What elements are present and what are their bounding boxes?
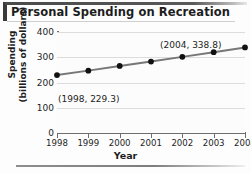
x-tick-label: 2001	[140, 138, 162, 148]
data-point-marker	[179, 54, 185, 60]
y-axis-title-line1: Spending	[7, 31, 17, 79]
x-tick-label: 1999	[77, 138, 99, 148]
x-axis-title: Year	[0, 150, 251, 161]
data-point-marker	[117, 63, 123, 69]
y-tick-label: 400	[24, 27, 54, 37]
annotation-last-point: (2004, 338.8)	[160, 40, 221, 50]
y-tick-label: 200	[24, 78, 54, 88]
page-bottom-rule	[16, 165, 245, 167]
x-tick-label: 1998	[46, 138, 68, 148]
x-tick-label: 2002	[171, 138, 193, 148]
chart-figure: Personal Spending on Recreation Spending…	[0, 0, 251, 173]
x-tick-label: 2000	[109, 138, 131, 148]
y-tick-label: 300	[24, 52, 54, 62]
x-tick-label: 2004	[234, 138, 251, 148]
data-point-marker	[54, 72, 60, 78]
title-underline	[7, 21, 235, 22]
data-point-marker	[242, 45, 248, 51]
data-point-marker	[211, 49, 217, 55]
y-tick-label: 0	[24, 128, 54, 138]
chart-title: Personal Spending on Recreation	[11, 5, 230, 19]
y-axis-tick-labels: 0100200300400	[20, 32, 54, 133]
data-point-marker	[148, 59, 154, 65]
x-tick-label: 2003	[203, 138, 225, 148]
y-tick-label: 100	[24, 103, 54, 113]
annotation-first-point: (1998, 229.3)	[58, 94, 119, 104]
data-point-marker	[85, 68, 91, 74]
